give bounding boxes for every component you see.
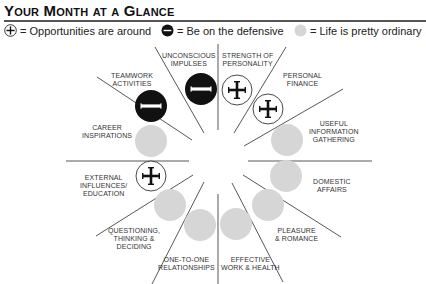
circle-strength — [222, 75, 252, 105]
sector-label-external: EXTERNALINFLUENCES/EDUCATION — [80, 174, 127, 198]
circle-domestic — [270, 160, 302, 192]
sector-label-unconscious: UNCONSCIOUSIMPULSES — [162, 52, 216, 68]
circle-career — [135, 125, 167, 157]
circle-work-health — [220, 208, 252, 240]
circle-teamwork — [135, 90, 167, 122]
circle-external — [136, 161, 166, 191]
sector-label-useful-info: USEFULINFORMATIONGATHERING — [309, 120, 359, 144]
sector-label-one-to-one: ONE-TO-ONERELATIONSHIPS — [158, 256, 215, 272]
circle-one-to-one — [184, 209, 216, 241]
sector-label-finance: PERSONALFINANCE — [283, 72, 322, 88]
month-wheel — [0, 0, 426, 284]
circle-unconscious — [185, 73, 217, 105]
circle-questioning — [154, 189, 186, 221]
sector-label-pleasure: PLEASURE& ROMANCE — [275, 227, 318, 243]
sector-label-career: CAREERINSPIRATIONS — [82, 124, 132, 140]
sector-label-teamwork: TEAMWORKACTIVITIES — [111, 72, 153, 88]
sector-label-work-health: EFFECTIVEWORK & HEALTH — [221, 256, 280, 272]
circle-useful-info — [271, 124, 303, 156]
sector-label-domestic: DOMESTICAFFAIRS — [313, 178, 351, 194]
sector-label-strength: STRENGTH OFPERSONALITY — [222, 52, 273, 68]
sector-label-questioning: QUESTIONING,THINKING &DECIDING — [108, 227, 160, 251]
circle-pleasure — [252, 189, 284, 221]
circle-finance — [253, 94, 283, 124]
